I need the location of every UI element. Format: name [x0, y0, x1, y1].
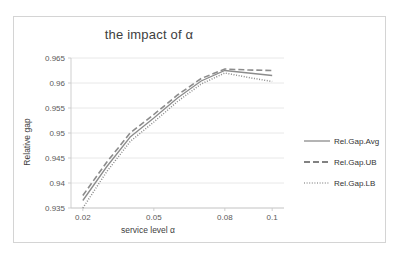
- data-series: [83, 69, 272, 208]
- series-line-rel-gap-avg: [83, 71, 272, 201]
- legend-label-rel-gap-ub: Rel.Gap.UB: [334, 158, 377, 167]
- x-axis-title: service level α: [121, 225, 175, 235]
- x-tick-label: 0.1: [267, 213, 279, 222]
- x-tick-label: 0.08: [217, 213, 233, 222]
- chart-container: the impact of α 0.9650.960.9550.950.9450…: [13, 16, 386, 243]
- x-tick-label: 0.02: [75, 213, 91, 222]
- y-axis-title: Relative gap: [22, 118, 32, 166]
- y-tick-label: 0.95: [49, 129, 65, 138]
- series-line-rel-gap-lb: [83, 73, 272, 208]
- chart-legend: Rel.Gap.AvgRel.Gap.UBRel.Gap.LB: [304, 137, 379, 188]
- x-axis-tick-labels: 0.020.050.080.1: [75, 208, 278, 222]
- y-tick-label: 0.945: [45, 154, 66, 163]
- series-line-rel-gap-ub: [83, 69, 272, 196]
- y-tick-label: 0.96: [49, 79, 65, 88]
- gridlines: [71, 58, 284, 208]
- y-tick-label: 0.965: [45, 54, 66, 63]
- plot-area: 0.9650.960.9550.950.9450.940.935 0.020.0…: [14, 17, 385, 242]
- legend-label-rel-gap-lb: Rel.Gap.LB: [334, 179, 375, 188]
- x-tick-label: 0.05: [146, 213, 162, 222]
- y-tick-label: 0.94: [49, 179, 65, 188]
- y-tick-label: 0.935: [45, 204, 66, 213]
- y-tick-label: 0.955: [45, 104, 66, 113]
- legend-label-rel-gap-avg: Rel.Gap.Avg: [334, 137, 379, 146]
- y-axis-tick-labels: 0.9650.960.9550.950.9450.940.935: [45, 54, 71, 213]
